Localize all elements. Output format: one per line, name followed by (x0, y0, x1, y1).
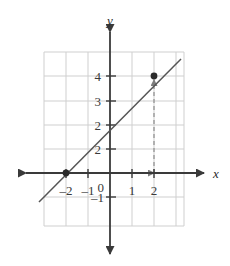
coordinate-plane-figure: –2 –1 1 2 4 3 2 2 –1 0 y x (0, 0, 230, 266)
origin-label: 0 (98, 180, 105, 195)
x-axis-label: x (212, 166, 219, 181)
x-tick-labels: –2 –1 1 2 (59, 183, 158, 198)
point-2-4 (151, 73, 158, 80)
x-tick-label-1: 1 (129, 183, 136, 198)
axes (26, 32, 204, 254)
graph-canvas: –2 –1 1 2 4 3 2 2 –1 0 y x (0, 0, 230, 266)
x-tick-label-2: 2 (151, 183, 158, 198)
y-tick-label-4: 4 (95, 69, 102, 84)
y-tick-label-2: 2 (95, 118, 102, 133)
point-x-intercept (63, 170, 70, 177)
x-tick-label-neg2: –2 (59, 183, 73, 198)
y-axis-label: y (105, 13, 113, 28)
y-tick-label-1: 2 (95, 142, 102, 157)
y-tick-label-3: 3 (95, 94, 102, 109)
